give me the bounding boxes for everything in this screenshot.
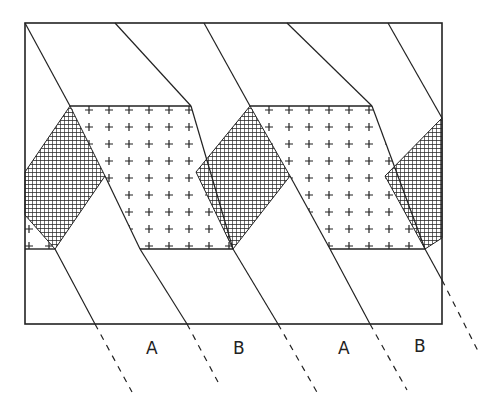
label-a-2: A xyxy=(338,338,350,358)
label-b-2: B xyxy=(414,336,426,356)
label-b-1: B xyxy=(233,338,245,358)
label-a-1: A xyxy=(146,338,158,358)
braid-diagram xyxy=(0,0,502,416)
